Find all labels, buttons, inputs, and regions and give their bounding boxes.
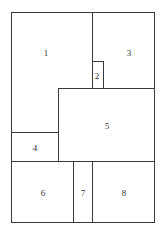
label-3: 3 [127,48,132,58]
partition-diagram: 1 2 3 4 5 6 7 8 [0,0,162,236]
label-5: 5 [105,121,110,131]
label-1: 1 [44,48,49,58]
label-8: 8 [122,188,127,198]
label-6: 6 [41,188,46,198]
label-7: 7 [81,188,86,198]
label-4: 4 [33,143,38,153]
label-2: 2 [95,71,100,81]
